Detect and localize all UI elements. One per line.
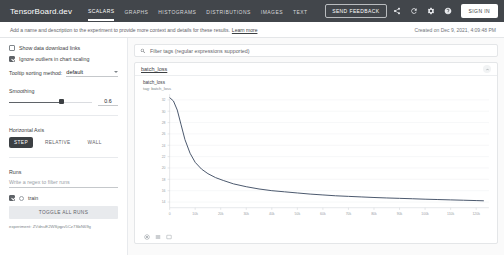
nav-tabs: SCALARS GRAPHS HISTOGRAMS DISTRIBUTIONS … (88, 2, 308, 21)
settings-sidebar: Show data download links Ignore outliers… (0, 38, 128, 255)
svg-text:60k: 60k (320, 212, 326, 216)
series-line-train (170, 98, 484, 201)
chevron-down-icon (114, 71, 118, 73)
svg-text:16: 16 (162, 189, 166, 193)
tab-scalars[interactable]: SCALARS (88, 2, 115, 21)
run-name-label: train (28, 195, 38, 201)
svg-text:14: 14 (162, 200, 166, 204)
expand-icon[interactable] (165, 233, 172, 240)
chart-subtitle: tag: batch_loss (143, 86, 171, 92)
tag-filter-input[interactable]: Filter tags (regular expressions support… (150, 48, 250, 54)
svg-text:30k: 30k (243, 212, 249, 216)
card-header[interactable]: batch_loss (135, 63, 497, 76)
grid-lines (170, 100, 489, 202)
run-color-dot (19, 196, 24, 201)
smoothing-slider[interactable] (9, 98, 92, 106)
slider-fill (9, 102, 60, 103)
tooltip-sorting-label: Tooltip sorting method: (9, 70, 62, 77)
toggle-all-runs-button[interactable]: TOGGLE ALL RUNS (9, 206, 118, 219)
horizontal-axis-group: STEP RELATIVE WALL (9, 137, 118, 148)
ignore-outliers-row[interactable]: Ignore outliers in chart scaling (9, 56, 118, 62)
share-icon[interactable] (391, 5, 404, 18)
horizontal-axis-label: Horizontal Axis (9, 127, 118, 133)
description-bar: Add a name and description to the experi… (0, 22, 504, 38)
svg-text:26: 26 (162, 132, 166, 136)
tab-images[interactable]: IMAGES (261, 3, 283, 20)
runs-filter-input[interactable]: Write a regex to filter runs (9, 179, 118, 188)
chart-container: batch_loss tag: batch_loss 1416182022242… (135, 76, 497, 243)
description-text: Add a name and description to the experi… (10, 27, 230, 33)
data-table-icon[interactable] (154, 233, 161, 240)
tooltip-sorting-select[interactable]: default (66, 69, 118, 77)
svg-text:0: 0 (169, 212, 171, 216)
experiment-id-label: experiment: ZVdnuE2WSjqpv5Cz7SbN69g (9, 224, 118, 230)
card-title[interactable]: batch_loss (141, 66, 167, 72)
created-timestamp: Created on Dec 9, 2021, 4:09:48 PM (415, 27, 496, 33)
slider-thumb[interactable] (59, 99, 64, 104)
checkbox-checked-icon[interactable] (9, 56, 15, 62)
chevron-up-icon[interactable] (483, 65, 491, 73)
chart-toolbar (143, 233, 172, 240)
svg-text:20: 20 (162, 166, 166, 170)
chart-labels: batch_loss tag: batch_loss (143, 80, 171, 92)
svg-text:10k: 10k (192, 212, 198, 216)
show-download-links-label: Show data download links (19, 45, 80, 51)
fit-domain-icon[interactable] (143, 233, 150, 240)
ignore-outliers-label: Ignore outliers in chart scaling (19, 56, 89, 62)
line-chart-svg: 14161820222426283032 010k20k30k40k50k60k… (143, 92, 491, 223)
run-item-train[interactable]: train (9, 195, 118, 201)
svg-text:100k: 100k (421, 212, 429, 216)
x-axis-ticks: 010k20k30k40k50k60k70k80k90k100k110k120k (169, 208, 480, 217)
svg-text:40k: 40k (269, 212, 275, 216)
sidebar-divider-1 (9, 115, 118, 116)
search-icon (140, 48, 146, 54)
smoothing-label: Smoothing (9, 88, 118, 94)
tab-distributions[interactable]: DISTRIBUTIONS (206, 3, 250, 20)
refresh-icon[interactable] (408, 5, 421, 18)
svg-text:24: 24 (162, 144, 166, 148)
brand-logo[interactable]: TensorBoard.dev (10, 7, 72, 16)
scalar-card: batch_loss batch_loss tag: batch_loss 14… (134, 62, 498, 244)
svg-text:70k: 70k (346, 212, 352, 216)
gear-icon[interactable] (425, 5, 438, 18)
svg-text:32: 32 (162, 98, 166, 102)
plot-area[interactable]: 14161820222426283032 010k20k30k40k50k60k… (143, 92, 491, 223)
run-checkbox-checked-icon[interactable] (9, 195, 15, 201)
sign-in-button[interactable]: SIGN IN (461, 4, 498, 18)
svg-text:90k: 90k (397, 212, 403, 216)
axis-option-wall[interactable]: WALL (83, 137, 107, 148)
send-feedback-button[interactable]: SEND FEEDBACK (325, 4, 386, 18)
svg-text:20k: 20k (218, 212, 224, 216)
checkbox-unchecked-icon[interactable] (9, 45, 15, 51)
app-bar: TensorBoard.dev SCALARS GRAPHS HISTOGRAM… (0, 0, 504, 22)
svg-text:22: 22 (162, 155, 166, 159)
svg-text:18: 18 (162, 178, 166, 182)
tooltip-sorting-row: Tooltip sorting method: default (9, 69, 118, 77)
svg-text:28: 28 (162, 121, 166, 125)
smoothing-row: 0.6 (9, 98, 118, 106)
show-download-links-row[interactable]: Show data download links (9, 45, 118, 51)
main-panel: Filter tags (regular expressions support… (128, 38, 504, 255)
tooltip-sorting-value: default (66, 69, 83, 75)
help-icon[interactable] (442, 5, 455, 18)
smoothing-value-input[interactable]: 0.6 (98, 98, 118, 106)
y-axis-ticks: 14161820222426283032 (162, 98, 170, 204)
runs-label: Runs (9, 169, 118, 175)
sidebar-divider-2 (9, 157, 118, 158)
svg-text:30: 30 (162, 110, 166, 114)
axis-option-relative[interactable]: RELATIVE (40, 137, 76, 148)
tag-filter-bar[interactable]: Filter tags (regular expressions support… (134, 44, 498, 57)
svg-text:110k: 110k (447, 212, 454, 216)
tab-text[interactable]: TEXT (293, 3, 308, 20)
axis-option-step[interactable]: STEP (9, 137, 33, 148)
tab-histograms[interactable]: HISTOGRAMS (158, 3, 196, 20)
svg-text:50k: 50k (295, 212, 301, 216)
content-area: Show data download links Ignore outliers… (0, 38, 504, 255)
learn-more-link[interactable]: Learn more (232, 27, 258, 33)
svg-text:120k: 120k (472, 212, 480, 216)
tab-graphs[interactable]: GRAPHS (124, 3, 148, 20)
svg-text:80k: 80k (371, 212, 377, 216)
